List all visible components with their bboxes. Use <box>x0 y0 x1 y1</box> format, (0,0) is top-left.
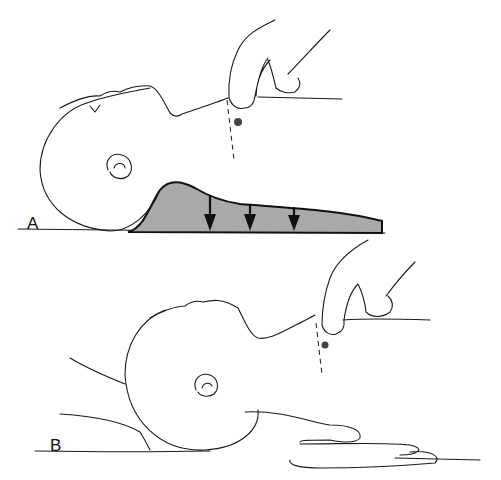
pulse-point-icon <box>234 118 242 126</box>
panel-a-padding <box>128 182 382 233</box>
panel-a-label: A <box>27 214 39 233</box>
panel-a-infant-head <box>40 88 160 231</box>
panel-a: A <box>18 20 385 233</box>
pulse-point-icon <box>322 342 329 349</box>
panel-b-infant-body <box>343 319 430 320</box>
panel-b-label: B <box>50 436 61 455</box>
panel-b-pulse-line <box>316 323 322 375</box>
panel-b-blanket <box>60 358 150 450</box>
panel-a-infant-body <box>258 97 342 99</box>
illustration: A B <box>0 0 501 480</box>
panel-a-eye <box>90 105 100 112</box>
panel-b-supporting-hand <box>245 412 437 468</box>
panel-a-infant-face <box>60 86 228 116</box>
panel-b-infant-head <box>125 310 258 450</box>
panel-b-rescuer-hand <box>322 240 415 335</box>
panel-a-pulse-line <box>227 100 234 160</box>
panel-b-infant-face <box>150 300 315 338</box>
panel-a-ear <box>107 154 131 178</box>
panel-a-rescuer-hand <box>229 20 330 109</box>
panel-b-ear <box>195 374 218 396</box>
panel-b: B <box>35 240 480 468</box>
